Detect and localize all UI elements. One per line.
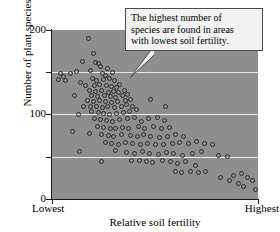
data-point bbox=[63, 78, 68, 83]
data-point bbox=[175, 161, 180, 166]
data-point bbox=[112, 105, 117, 110]
data-point bbox=[99, 132, 104, 137]
data-point bbox=[145, 141, 150, 146]
data-point bbox=[179, 170, 184, 175]
data-point bbox=[218, 175, 223, 180]
data-point bbox=[116, 142, 121, 147]
plot-area bbox=[52, 30, 258, 199]
data-point bbox=[177, 140, 182, 145]
data-point bbox=[134, 107, 139, 112]
data-point bbox=[86, 36, 91, 41]
data-point bbox=[121, 110, 126, 115]
data-point bbox=[196, 170, 201, 175]
data-point bbox=[105, 104, 110, 109]
data-point bbox=[130, 141, 135, 146]
data-point bbox=[159, 126, 164, 131]
data-point bbox=[153, 142, 158, 147]
x-axis-title: Relative soil fertility bbox=[52, 216, 258, 228]
x-axis-line bbox=[51, 199, 259, 200]
data-point bbox=[138, 142, 143, 147]
data-point bbox=[147, 151, 152, 156]
data-point bbox=[123, 140, 128, 145]
data-point bbox=[117, 117, 122, 122]
data-point bbox=[101, 111, 106, 116]
data-point bbox=[151, 124, 156, 129]
data-point bbox=[227, 178, 232, 183]
data-point bbox=[92, 83, 97, 88]
data-point bbox=[80, 59, 85, 64]
data-point bbox=[88, 68, 93, 73]
data-point bbox=[190, 151, 195, 156]
annotation-pointer-icon bbox=[128, 46, 154, 78]
data-point bbox=[150, 160, 155, 165]
data-point bbox=[110, 119, 115, 124]
data-point bbox=[70, 129, 75, 134]
data-point bbox=[181, 134, 186, 139]
data-point bbox=[155, 115, 160, 120]
data-point bbox=[180, 153, 185, 158]
annotation-line-2: species are found in areas bbox=[131, 24, 258, 36]
data-point bbox=[170, 141, 175, 146]
data-point bbox=[97, 82, 102, 87]
y-axis-title: Number of plant species bbox=[21, 0, 33, 128]
data-point bbox=[111, 134, 116, 139]
data-point bbox=[74, 69, 79, 74]
data-point bbox=[81, 104, 86, 109]
y-tick-150 bbox=[46, 72, 52, 73]
data-point bbox=[117, 82, 122, 87]
data-point bbox=[225, 154, 230, 159]
data-point bbox=[173, 132, 178, 137]
data-point bbox=[101, 77, 106, 82]
data-point bbox=[125, 92, 130, 97]
data-point bbox=[173, 169, 178, 174]
data-point bbox=[124, 150, 129, 155]
data-point bbox=[250, 178, 255, 183]
data-point bbox=[168, 159, 173, 164]
data-point bbox=[136, 124, 141, 129]
data-point bbox=[163, 104, 168, 109]
data-point bbox=[160, 158, 165, 163]
data-point bbox=[113, 126, 118, 131]
scatter-chart-figure: 200 100 0 Number of plant species Relati… bbox=[0, 0, 280, 232]
data-point bbox=[119, 132, 124, 137]
data-point bbox=[148, 134, 153, 139]
data-point bbox=[216, 153, 221, 158]
annotation-callout: The highest number of species are found … bbox=[125, 8, 263, 51]
data-point bbox=[146, 116, 151, 121]
data-point bbox=[128, 97, 133, 102]
data-point bbox=[144, 159, 149, 164]
data-point bbox=[188, 169, 193, 174]
data-point bbox=[126, 126, 131, 131]
data-point bbox=[56, 77, 61, 82]
data-point bbox=[102, 93, 107, 98]
data-point bbox=[110, 70, 115, 75]
y-tick-100 bbox=[46, 114, 52, 115]
data-point bbox=[85, 98, 90, 103]
data-point bbox=[103, 140, 108, 145]
data-point bbox=[203, 169, 208, 174]
data-point bbox=[156, 152, 161, 157]
data-point bbox=[109, 141, 114, 146]
data-point bbox=[164, 150, 169, 155]
data-point bbox=[183, 159, 188, 164]
data-point bbox=[105, 66, 110, 71]
data-point bbox=[97, 98, 102, 103]
data-point bbox=[120, 125, 125, 130]
data-point bbox=[137, 158, 142, 163]
data-point bbox=[132, 151, 137, 156]
data-point bbox=[68, 71, 73, 76]
data-point bbox=[87, 131, 92, 136]
data-point bbox=[92, 116, 97, 121]
data-point bbox=[76, 112, 81, 117]
data-point bbox=[148, 97, 153, 102]
data-point bbox=[186, 141, 191, 146]
y-tick-200 bbox=[46, 30, 52, 31]
data-point bbox=[162, 118, 167, 123]
data-point bbox=[129, 158, 134, 163]
data-point bbox=[194, 139, 199, 144]
data-point bbox=[239, 171, 244, 176]
data-point bbox=[202, 141, 207, 146]
data-point bbox=[139, 119, 144, 124]
data-point bbox=[99, 159, 104, 164]
data-point bbox=[132, 115, 137, 120]
